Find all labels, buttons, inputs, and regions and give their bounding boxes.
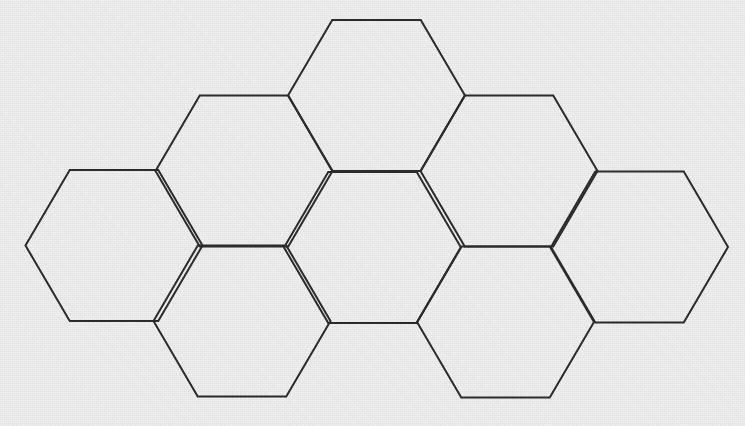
hexagon-cell-lower-left: [154, 246, 331, 397]
hexagon-group: [26, 20, 729, 398]
hexagon-cell-middle-right: [551, 172, 728, 323]
hexagon-cell-top-center: [288, 20, 465, 171]
hexagon-tiling-svg: [0, 0, 745, 426]
hexagon-cell-lower-right: [417, 247, 594, 398]
hexagon-cell-middle-left: [26, 170, 203, 321]
figure-canvas: [0, 0, 745, 426]
hexagon-cell-upper-left: [156, 96, 333, 247]
